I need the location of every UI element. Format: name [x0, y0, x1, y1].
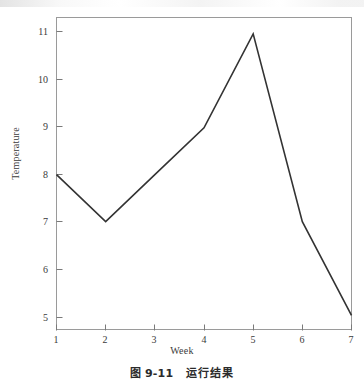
- x-tick-label: 3: [144, 334, 164, 345]
- line-chart: 5 6 7 8 9 10 11 1 2 3 4 5 6 7 Temperatur…: [0, 0, 364, 345]
- data-series-line: [57, 34, 352, 316]
- x-tick-label: 2: [95, 334, 115, 345]
- plot-frame: [57, 18, 352, 330]
- y-tick-label: 7: [24, 216, 48, 227]
- y-tick-label: 6: [24, 264, 48, 275]
- x-axis-title: Week: [0, 345, 364, 356]
- x-tick-label: 5: [243, 334, 263, 345]
- y-tick-label: 10: [24, 74, 48, 85]
- x-tick-label: 1: [46, 334, 66, 345]
- chart-canvas: [0, 0, 364, 345]
- x-tick-label: 7: [341, 334, 361, 345]
- y-tick-label: 9: [24, 121, 48, 132]
- y-axis-title: Temperature: [10, 109, 21, 199]
- figure-caption: 图 9-11运行结果: [0, 364, 364, 380]
- figure-container: 5 6 7 8 9 10 11 1 2 3 4 5 6 7 Temperatur…: [0, 0, 364, 387]
- x-tick-label: 6: [292, 334, 312, 345]
- y-tick-label: 5: [24, 312, 48, 323]
- figure-caption-number: 图 9-11: [130, 367, 174, 380]
- x-tick-label: 4: [194, 334, 214, 345]
- figure-caption-text: 运行结果: [186, 367, 234, 380]
- y-tick-label: 11: [24, 26, 48, 37]
- y-tick-label: 8: [24, 169, 48, 180]
